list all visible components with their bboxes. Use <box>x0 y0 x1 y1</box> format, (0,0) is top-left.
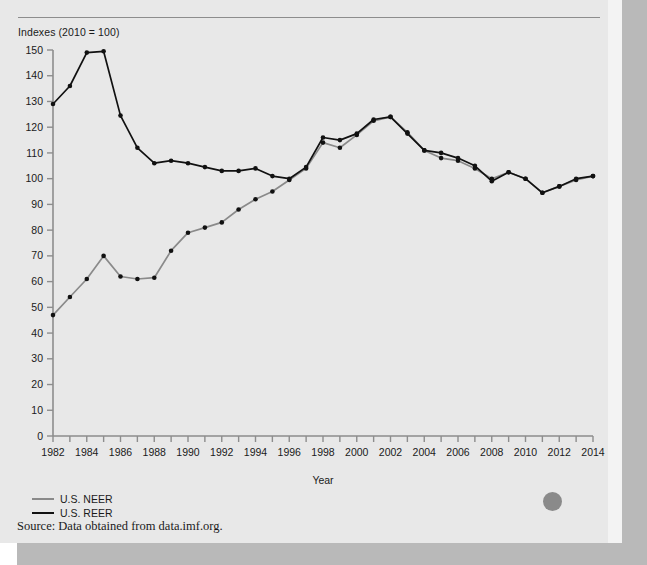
x-tick-label: 2006 <box>446 446 470 458</box>
data-point-marker <box>51 102 56 107</box>
page-canvas: Indexes (2010 = 100) 0102030405060708090… <box>0 0 647 565</box>
data-point-marker <box>236 169 241 174</box>
x-tick-label: 1994 <box>244 446 268 458</box>
y-tick-label: 130 <box>25 95 43 107</box>
legend-label-neer: U.S. NEER <box>60 493 113 505</box>
data-point-marker <box>287 176 292 181</box>
data-point-marker <box>439 156 444 161</box>
y-tick-label: 80 <box>31 224 43 236</box>
data-point-marker <box>118 274 123 279</box>
data-point-marker <box>523 176 528 181</box>
data-point-marker <box>152 275 157 280</box>
y-tick-label: 90 <box>31 198 43 210</box>
data-point-marker <box>540 191 545 196</box>
legend-line-neer-icon <box>32 498 54 500</box>
legend-item-reer: U.S. REER <box>32 506 113 520</box>
y-tick-label: 100 <box>25 172 43 184</box>
y-tick-label: 60 <box>31 275 43 287</box>
data-point-marker <box>51 313 56 318</box>
y-tick-label: 0 <box>37 430 43 442</box>
data-point-marker <box>236 207 241 212</box>
x-tick-label: 2008 <box>480 446 504 458</box>
chart-legend: U.S. NEER U.S. REER <box>32 492 113 520</box>
x-tick-label: 1988 <box>143 446 167 458</box>
page-gutter-right <box>622 0 647 543</box>
x-tick-label: 1982 <box>41 446 65 458</box>
data-point-marker <box>68 295 73 300</box>
x-tick-label: 1984 <box>75 446 99 458</box>
legend-line-reer-icon <box>32 512 54 514</box>
data-point-marker <box>270 174 275 179</box>
data-point-marker <box>439 151 444 156</box>
y-tick-label: 110 <box>26 147 43 159</box>
series-line-usneer <box>53 117 593 315</box>
data-point-marker <box>101 254 106 259</box>
y-tick-label: 120 <box>25 121 43 133</box>
x-tick-label: 2010 <box>514 446 538 458</box>
data-point-marker <box>422 148 427 153</box>
data-point-marker <box>135 277 140 282</box>
data-point-marker <box>85 277 90 282</box>
x-tick-label: 2012 <box>548 446 572 458</box>
x-tick-label: 1992 <box>210 446 234 458</box>
y-tick-label: 40 <box>31 327 43 339</box>
x-tick-label: 2014 <box>581 446 605 458</box>
data-point-marker <box>574 176 579 181</box>
page-marker-dot-icon <box>543 492 562 511</box>
data-point-marker <box>68 84 73 89</box>
data-point-marker <box>220 169 225 174</box>
data-point-marker <box>135 146 140 151</box>
y-tick-label: 150 <box>25 44 43 56</box>
figure-sheet: Indexes (2010 = 100) 0102030405060708090… <box>0 0 608 543</box>
data-point-marker <box>85 50 90 55</box>
x-tick-label: 1996 <box>278 446 302 458</box>
data-point-marker <box>101 49 106 54</box>
source-caption: Source: Data obtained from data.imf.org. <box>17 519 223 534</box>
data-point-marker <box>253 166 258 171</box>
y-tick-label: 70 <box>31 249 43 261</box>
legend-label-reer: U.S. REER <box>60 507 113 519</box>
data-point-marker <box>355 131 360 136</box>
data-point-marker <box>220 220 225 225</box>
series-line-usreer <box>53 51 593 193</box>
data-point-marker <box>490 179 495 184</box>
legend-item-neer: U.S. NEER <box>32 492 113 506</box>
y-tick-label: 10 <box>31 404 43 416</box>
data-point-marker <box>473 164 478 169</box>
data-point-marker <box>270 189 275 194</box>
data-point-marker <box>506 170 511 175</box>
x-tick-label: 2002 <box>379 446 403 458</box>
data-point-marker <box>338 138 343 143</box>
page-gutter-corner <box>0 543 17 565</box>
data-point-marker <box>304 165 309 170</box>
x-tick-label: 2004 <box>413 446 437 458</box>
data-point-marker <box>186 161 191 166</box>
y-tick-label: 140 <box>25 69 43 81</box>
page-edge-highlight <box>608 0 622 543</box>
data-point-marker <box>338 146 343 151</box>
x-tick-label: 1990 <box>176 446 200 458</box>
y-tick-label: 50 <box>31 301 43 313</box>
data-point-marker <box>591 174 596 179</box>
x-tick-label: 1986 <box>109 446 133 458</box>
data-point-marker <box>405 131 410 136</box>
data-point-marker <box>456 156 461 161</box>
data-point-marker <box>253 197 258 202</box>
x-axis-title: Year <box>312 474 334 486</box>
page-gutter-bottom <box>17 543 647 565</box>
plot-area: 0102030405060708090100110120130140150198… <box>0 0 608 500</box>
y-tick-label: 20 <box>31 378 43 390</box>
data-point-marker <box>371 117 376 122</box>
x-tick-label: 1998 <box>311 446 335 458</box>
data-point-marker <box>557 184 562 189</box>
data-point-marker <box>203 225 208 230</box>
x-tick-label: 2000 <box>345 446 369 458</box>
data-point-marker <box>203 165 208 170</box>
data-point-marker <box>152 161 157 166</box>
line-chart: 0102030405060708090100110120130140150198… <box>0 0 608 500</box>
data-point-marker <box>169 158 174 163</box>
data-point-marker <box>321 135 326 140</box>
data-point-marker <box>388 115 393 120</box>
data-point-marker <box>118 113 123 118</box>
data-point-marker <box>186 230 191 235</box>
